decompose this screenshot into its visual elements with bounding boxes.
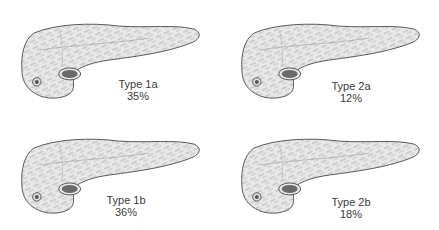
type-percent: 12%: [321, 92, 381, 104]
type-name: Type 1b: [96, 194, 156, 206]
type-label: Type 1b 36%: [96, 194, 156, 218]
type-name: Type 2b: [321, 196, 381, 208]
type-name: Type 2a: [321, 80, 381, 92]
type-name: Type 1a: [108, 78, 168, 90]
type-label: Type 2b 18%: [321, 196, 381, 220]
type-label: Type 2a 12%: [321, 80, 381, 104]
type-label: Type 1a 35%: [108, 78, 168, 102]
panel-type-1a: Type 1a 35%: [0, 0, 219, 115]
type-percent: 18%: [321, 208, 381, 220]
type-percent: 36%: [96, 206, 156, 218]
panel-type-2b: Type 2b 18%: [220, 115, 439, 230]
type-percent: 35%: [108, 90, 168, 102]
panel-type-1b: Type 1b 36%: [0, 115, 219, 230]
panel-type-2a: Type 2a 12%: [220, 0, 439, 115]
